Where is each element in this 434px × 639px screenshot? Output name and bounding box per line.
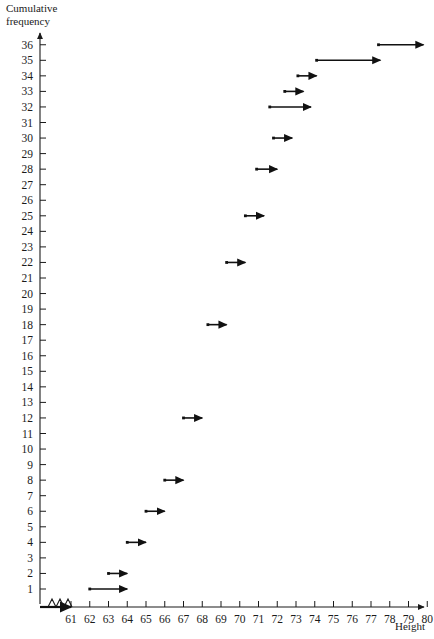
y-tick-label: 8 (27, 474, 33, 486)
step-segment-start-cap (244, 214, 247, 217)
x-axis-ticks: 6162636465666768697071727374757677787980 (65, 601, 433, 625)
y-tick-label: 25 (22, 210, 34, 222)
y-tick-label: 12 (22, 412, 34, 424)
y-tick-label: 27 (22, 179, 34, 191)
step-segment-start-cap (315, 59, 318, 62)
x-tick-label: 71 (253, 613, 265, 625)
y-tick-label: 28 (22, 163, 34, 175)
y-tick-label: 5 (27, 521, 33, 533)
step-segments (40, 43, 424, 607)
step-segment-start-cap (272, 137, 275, 140)
x-tick-label: 75 (328, 613, 340, 625)
chart-canvas: Cumulative frequency 1234567891011121314… (0, 0, 434, 639)
x-tick-label: 65 (140, 613, 152, 625)
y-tick-label: 16 (22, 350, 34, 362)
y-tick-label: 35 (22, 54, 34, 66)
x-tick-label: 73 (290, 613, 302, 625)
x-tick-label: 70 (234, 613, 246, 625)
y-tick-label: 15 (22, 365, 34, 377)
step-segment-start-cap (377, 43, 380, 46)
step-segment-start-cap (145, 510, 148, 513)
y-tick-label: 30 (22, 132, 34, 144)
step-segment-start-cap (283, 90, 286, 93)
step-segment-start-cap (126, 541, 129, 544)
y-tick-label: 23 (22, 241, 34, 253)
x-tick-label: 62 (84, 613, 96, 625)
y-tick-label: 14 (22, 381, 34, 393)
y-tick-label: 26 (22, 194, 34, 206)
y-tick-label: 11 (22, 428, 33, 440)
x-tick-label: 63 (103, 613, 115, 625)
y-tick-label: 9 (27, 459, 33, 471)
step-segment-start-cap (206, 323, 209, 326)
y-tick-label: 13 (22, 396, 34, 408)
y-axis-ticks: 1234567891011121314151617181920212223242… (22, 39, 47, 595)
x-tick-label: 74 (309, 613, 321, 625)
step-segment-start-cap (182, 417, 185, 420)
x-tick-label: 72 (272, 613, 284, 625)
y-tick-label: 2 (27, 567, 33, 579)
x-tick-label: 68 (197, 613, 209, 625)
y-tick-label: 32 (22, 101, 34, 113)
x-tick-label: 76 (347, 613, 359, 625)
y-tick-label: 21 (22, 272, 34, 284)
step-segment-start-cap (268, 106, 271, 109)
y-tick-label: 31 (22, 117, 34, 129)
step-segment-start-cap (88, 588, 91, 591)
x-tick-label: 61 (65, 613, 77, 625)
x-tick-label: 69 (215, 613, 227, 625)
y-tick-label: 17 (22, 334, 34, 346)
y-tick-label: 36 (22, 39, 34, 51)
y-tick-label: 3 (27, 552, 33, 564)
y-tick-label: 1 (27, 583, 33, 595)
x-axis-title: Height (395, 620, 425, 632)
cumulative-frequency-step-chart: Cumulative frequency 1234567891011121314… (0, 0, 434, 639)
y-tick-label: 22 (22, 256, 34, 268)
y-tick-label: 24 (22, 225, 34, 237)
y-tick-label: 4 (27, 536, 33, 548)
y-tick-label: 6 (27, 505, 33, 517)
y-axis-title: Cumulative frequency (6, 2, 57, 27)
y-tick-label: 20 (22, 288, 34, 300)
step-segment-start-cap (107, 572, 110, 575)
y-axis-title-line1: Cumulative (6, 2, 57, 14)
y-axis-title-line2: frequency (6, 15, 50, 27)
y-tick-label: 33 (22, 85, 34, 97)
x-tick-label: 64 (122, 613, 134, 625)
step-segment-start-cap (163, 479, 166, 482)
x-tick-label: 66 (159, 613, 171, 625)
axes (40, 33, 424, 607)
y-tick-label: 7 (27, 490, 33, 502)
axis-break-icon (48, 599, 72, 607)
y-tick-label: 34 (22, 70, 34, 82)
step-segment-start-cap (296, 74, 299, 77)
x-tick-label: 77 (365, 613, 377, 625)
y-tick-label: 29 (22, 148, 34, 160)
y-tick-label: 19 (22, 303, 34, 315)
step-segment-start-cap (255, 168, 258, 171)
x-tick-label: 67 (178, 613, 190, 625)
y-tick-label: 10 (22, 443, 34, 455)
x-tick-label: 78 (384, 613, 396, 625)
y-tick-label: 18 (22, 319, 34, 331)
step-segment-start-cap (225, 261, 228, 264)
